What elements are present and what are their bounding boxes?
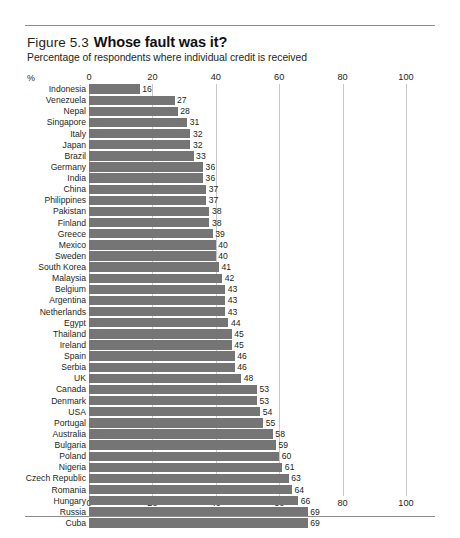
bar-row: USA54 [0, 407, 460, 418]
bar-value-label: 45 [234, 340, 244, 350]
figure-page: Figure 5.3Whose fault was it? Percentage… [0, 0, 460, 538]
bar-value-label: 41 [221, 262, 231, 272]
bar-value-label: 63 [291, 473, 301, 483]
bar-category-label: Philippines [44, 195, 86, 205]
bar-row: China37 [0, 184, 460, 195]
bar-category-label: Nigeria [59, 462, 86, 472]
bar-row: Romania64 [0, 485, 460, 496]
bar-category-label: Romania [52, 485, 86, 495]
bar-value-label: 54 [263, 407, 273, 417]
bar [89, 229, 213, 238]
bar-category-label: Poland [59, 451, 86, 461]
bar [89, 363, 235, 372]
bar-row: Italy32 [0, 129, 460, 140]
bar-value-label: 43 [228, 307, 238, 317]
bar-value-label: 36 [206, 173, 216, 183]
bar-value-label: 43 [228, 284, 238, 294]
bar [89, 474, 289, 483]
bar-category-label: Brazil [65, 151, 87, 161]
bar-row: Brazil33 [0, 151, 460, 162]
bar [89, 196, 206, 205]
bar [89, 351, 235, 360]
bar [89, 84, 140, 93]
bar-category-label: South Korea [38, 262, 86, 272]
bar-row: Egypt44 [0, 318, 460, 329]
bar-value-label: 37 [209, 195, 219, 205]
bar [89, 96, 175, 105]
bar [89, 118, 187, 127]
bar-value-label: 45 [234, 329, 244, 339]
bar [89, 151, 194, 160]
bar [89, 285, 225, 294]
bar-value-label: 46 [237, 362, 247, 372]
bar-row: Sweden40 [0, 251, 460, 262]
bar [89, 463, 282, 472]
bar [89, 162, 203, 171]
bar-row: Indonesia16 [0, 84, 460, 95]
bar [89, 485, 292, 494]
bar-value-label: 43 [228, 295, 238, 305]
bar [89, 274, 222, 283]
bar [89, 140, 190, 149]
axis-tick-label-100: 100 [398, 72, 413, 82]
bar-row: Cuba69 [0, 518, 460, 529]
bar-category-label: Bulgaria [54, 440, 86, 450]
bar [89, 240, 216, 249]
bar-value-label: 36 [206, 162, 216, 172]
bar [89, 185, 206, 194]
bar-category-label: Serbia [61, 362, 86, 372]
bar [89, 440, 276, 449]
bar-row: India36 [0, 173, 460, 184]
bar-category-label: Belgium [55, 284, 86, 294]
bar-row: Malaysia42 [0, 273, 460, 284]
bar [89, 396, 257, 405]
bar-value-label: 61 [285, 462, 295, 472]
axis-tick-label-80: 80 [337, 72, 347, 82]
axis-tick-label-0: 0 [86, 72, 91, 82]
bar-value-label: 69 [310, 518, 320, 528]
bar [89, 329, 232, 338]
bar [89, 207, 209, 216]
bar-row: Finland38 [0, 218, 460, 229]
bar-row: Nepal28 [0, 106, 460, 117]
bar-category-label: India [67, 173, 86, 183]
bar-category-label: Germany [51, 162, 86, 172]
bar-chart: % 020406080100 020406080100 Indonesia16V… [0, 0, 460, 538]
bar-value-label: 31 [190, 117, 200, 127]
bar-row: Canada53 [0, 384, 460, 395]
bar-value-label: 33 [196, 151, 206, 161]
bar [89, 496, 298, 505]
bar-category-label: Sweden [55, 251, 86, 261]
axis-tick-label-60: 60 [274, 72, 284, 82]
bar-row: Ireland45 [0, 340, 460, 351]
bar-category-label: Malaysia [52, 273, 86, 283]
bar [89, 429, 273, 438]
bar-category-label: Egypt [64, 318, 86, 328]
bar-value-label: 32 [193, 129, 203, 139]
bar-row: Czech Republic63 [0, 473, 460, 484]
bar-row: Serbia46 [0, 362, 460, 373]
bar [89, 307, 225, 316]
bar-value-label: 66 [301, 496, 311, 506]
bar-category-label: Venezuela [46, 95, 86, 105]
bar [89, 318, 228, 327]
bar [89, 107, 178, 116]
bar-category-label: Spain [64, 351, 86, 361]
bar-row: Mexico40 [0, 240, 460, 251]
bar-value-label: 46 [237, 351, 247, 361]
bar-row: Belgium43 [0, 284, 460, 295]
bar-row: Greece39 [0, 229, 460, 240]
bar [89, 407, 260, 416]
bar-category-label: Netherlands [40, 307, 86, 317]
bar-value-label: 48 [244, 373, 254, 383]
bar-row: Portugal55 [0, 418, 460, 429]
bar-row: Netherlands43 [0, 307, 460, 318]
bar-category-label: Australia [53, 429, 86, 439]
bar-category-label: Finland [58, 218, 86, 228]
bar-value-label: 60 [282, 451, 292, 461]
bar-value-label: 44 [231, 318, 241, 328]
bar-rows: Indonesia16Venezuela27Nepal28Singapore31… [0, 84, 460, 529]
bar-value-label: 32 [193, 140, 203, 150]
bar-row: Pakistan38 [0, 206, 460, 217]
bar [89, 385, 257, 394]
